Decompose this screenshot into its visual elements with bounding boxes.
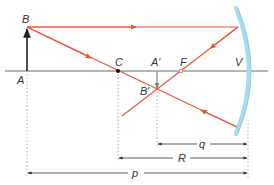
guide-lines [27, 74, 248, 177]
label-p: p [131, 167, 138, 179]
label-a-prime: A′ [150, 56, 161, 68]
ray-reflected-arrow [212, 27, 238, 47]
label-v: V [235, 56, 244, 68]
label-q: q [199, 138, 206, 150]
label-b: B [22, 13, 29, 25]
ray-center-return-arrow [203, 111, 237, 127]
center-point [116, 69, 120, 73]
label-c: C [115, 56, 123, 68]
label-a: A [16, 74, 24, 86]
focus-point [179, 69, 183, 73]
ray-center-arrow [27, 27, 89, 57]
label-b-prime: B′ [140, 85, 150, 97]
light-rays [27, 27, 238, 127]
label-r: R [178, 152, 186, 164]
mirror-ray-diagram: B A C A′ B′ F V q R p [0, 0, 274, 185]
